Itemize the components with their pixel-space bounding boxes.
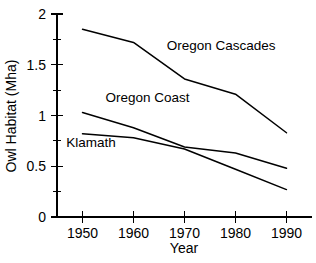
x-axis-tick-labels: 19501960197019801990: [67, 225, 302, 241]
owl-habitat-line-chart: 00.511.52 19501960197019801990 Oregon Ca…: [0, 0, 316, 263]
series-label-oregon-cascades: Oregon Cascades: [167, 38, 276, 53]
y-axis-tick-labels: 00.511.52: [27, 6, 47, 225]
series-label-oregon-coast: Oregon Coast: [105, 90, 189, 105]
chart-canvas: 00.511.52 19501960197019801990 Oregon Ca…: [0, 0, 316, 263]
x-tick-label-0: 1950: [67, 225, 98, 241]
x-axis-title: Year: [170, 240, 199, 256]
y-tick-label-1: 0.5: [27, 158, 47, 174]
series-annotation-labels: Oregon CascadesOregon CoastKlamath: [66, 38, 276, 150]
y-tick-label-2: 1: [38, 108, 46, 124]
series-label-klamath: Klamath: [66, 135, 116, 150]
x-axis-group: 19501960197019801990: [57, 211, 312, 241]
y-tick-label-3: 1.5: [27, 57, 47, 73]
y-tick-label-0: 0: [38, 209, 46, 225]
y-axis-group: 00.511.52: [27, 6, 63, 225]
x-tick-label-4: 1990: [271, 225, 302, 241]
x-tick-label-1: 1960: [118, 225, 149, 241]
series-lines-group: [83, 29, 287, 189]
y-axis-title: Owl Habitat (Mha): [3, 60, 19, 173]
x-tick-label-2: 1970: [169, 225, 200, 241]
y-tick-label-4: 2: [38, 6, 46, 22]
x-tick-label-3: 1980: [220, 225, 251, 241]
